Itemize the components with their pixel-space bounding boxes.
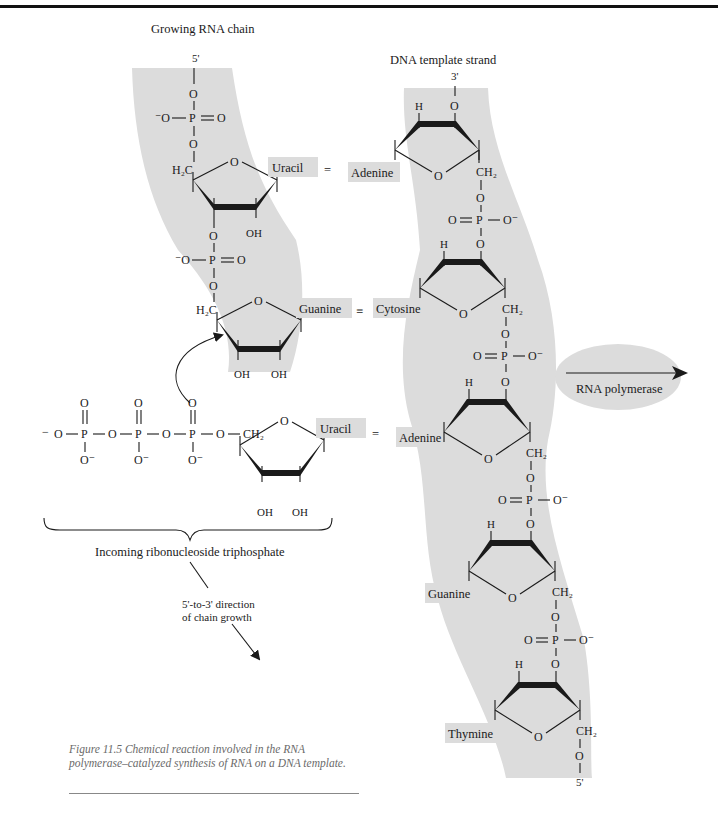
svg-text:O: O	[80, 396, 89, 410]
svg-text:OH: OH	[292, 506, 308, 518]
svg-text:O: O	[501, 327, 510, 341]
svg-text:O: O	[209, 279, 218, 293]
incoming-triphosphate: − O P O O⁻ O P O O⁻ O P O O⁻ O CH₂ O	[42, 396, 324, 518]
svg-text:H₂C: H₂C	[172, 163, 193, 177]
pair-bond-2: ≡	[356, 304, 363, 318]
dna-base-thymine: Thymine	[448, 727, 494, 741]
svg-text:O: O	[448, 213, 457, 227]
svg-text:O: O	[459, 307, 468, 321]
rna-synthesis-diagram: Growing RNA chain DNA template strand 5'…	[0, 0, 723, 830]
svg-text:OH: OH	[257, 506, 273, 518]
svg-text:O: O	[434, 169, 443, 183]
svg-text:O: O	[450, 99, 459, 113]
svg-text:O: O	[534, 730, 543, 744]
svg-text:O⁻: O⁻	[134, 453, 149, 467]
svg-text:O: O	[280, 414, 289, 428]
dna-strand-title: DNA template strand	[390, 53, 497, 67]
svg-text:P: P	[81, 427, 88, 441]
svg-text:CH₂: CH₂	[502, 302, 523, 316]
svg-text:O⁻: O⁻	[528, 349, 543, 363]
rna-base-uracil: Uracil	[272, 161, 304, 175]
svg-text:P: P	[476, 213, 483, 227]
svg-text:O: O	[498, 493, 507, 507]
svg-text:⁻O: ⁻O	[175, 253, 190, 267]
svg-text:O: O	[484, 452, 493, 466]
svg-text:O: O	[526, 517, 535, 531]
svg-text:O: O	[524, 633, 533, 647]
svg-text:O: O	[501, 375, 510, 389]
svg-text:P: P	[209, 253, 216, 267]
svg-text:O: O	[162, 427, 171, 441]
svg-text:O: O	[526, 471, 535, 485]
svg-text:O⁻: O⁻	[503, 213, 518, 227]
svg-text:O⁻: O⁻	[80, 453, 95, 467]
svg-text:O: O	[209, 229, 218, 243]
svg-text:O: O	[189, 87, 198, 101]
svg-text:P: P	[189, 427, 196, 441]
svg-text:CH₂: CH₂	[552, 585, 573, 599]
svg-text:CH₂: CH₂	[243, 427, 264, 441]
caption-rule	[69, 793, 359, 794]
svg-text:O: O	[189, 137, 198, 151]
svg-text:O⁻: O⁻	[553, 493, 568, 507]
incoming-base-uracil: Uracil	[320, 422, 352, 436]
svg-text:OH: OH	[234, 368, 250, 380]
svg-text:O: O	[134, 396, 143, 410]
svg-text:O: O	[254, 294, 263, 308]
svg-text:O⁻: O⁻	[188, 453, 203, 467]
svg-text:O: O	[508, 591, 517, 605]
direction-line-1: 5'-to-3' direction	[182, 598, 255, 610]
svg-text:O: O	[476, 191, 485, 205]
svg-text:P: P	[501, 349, 508, 363]
rna-polymerase-ellipse	[555, 344, 681, 410]
dna-5prime-label: 5'	[576, 776, 584, 788]
svg-text:O: O	[216, 427, 225, 441]
dna-base-adenine-1: Adenine	[351, 166, 394, 180]
svg-text:O: O	[54, 427, 63, 441]
svg-text:H: H	[487, 518, 495, 530]
rna-chain-title: Growing RNA chain	[151, 22, 255, 36]
direction-line-2: of chain growth	[182, 611, 252, 623]
pair-bond-1: =	[324, 163, 331, 177]
pair-bond-3: =	[372, 427, 379, 441]
svg-text:H₂C: H₂C	[196, 303, 217, 317]
incoming-brace	[44, 518, 332, 540]
dna-base-adenine-2: Adenine	[399, 431, 442, 445]
svg-text:H: H	[415, 100, 423, 112]
svg-text:OH: OH	[246, 227, 262, 239]
svg-text:O: O	[473, 349, 482, 363]
rna-5prime-label: 5'	[192, 52, 200, 64]
nucleophilic-attack-arrow	[176, 335, 222, 403]
svg-text:O: O	[237, 253, 246, 267]
svg-text:O: O	[575, 749, 584, 763]
incoming-label: Incoming ribonucleoside triphosphate	[95, 545, 285, 559]
rna-base-guanine: Guanine	[299, 302, 342, 316]
svg-text:H: H	[515, 658, 523, 670]
dna-3prime-label: 3'	[451, 70, 459, 82]
svg-text:O: O	[551, 657, 560, 671]
svg-text:CH₂: CH₂	[576, 724, 597, 738]
svg-text:P: P	[189, 111, 196, 125]
dna-base-cytosine: Cytosine	[376, 302, 421, 316]
svg-text:O⁻: O⁻	[579, 633, 594, 647]
svg-text:CH₂: CH₂	[526, 446, 547, 460]
svg-text:−: −	[42, 425, 49, 439]
svg-text:H: H	[465, 376, 473, 388]
dna-base-guanine: Guanine	[428, 587, 471, 601]
svg-text:O: O	[230, 155, 239, 169]
svg-text:P: P	[135, 427, 142, 441]
svg-text:⁻O: ⁻O	[155, 111, 170, 125]
direction-arrow	[232, 624, 259, 659]
svg-text:O: O	[551, 610, 560, 624]
figure-caption: Figure 11.5 Chemical reaction involved i…	[69, 742, 359, 770]
svg-text:P: P	[552, 633, 559, 647]
svg-text:P: P	[526, 493, 533, 507]
svg-text:O: O	[108, 427, 117, 441]
svg-text:O: O	[217, 111, 226, 125]
svg-text:H: H	[440, 238, 448, 250]
rna-polymerase-label: RNA polymerase	[576, 382, 663, 396]
svg-text:O: O	[476, 237, 485, 251]
svg-text:OH: OH	[271, 368, 287, 380]
svg-text:CH₂: CH₂	[476, 165, 497, 179]
